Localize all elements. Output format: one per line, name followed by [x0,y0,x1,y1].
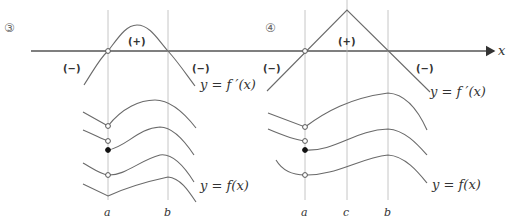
tick-label-b: b [384,206,391,219]
tick-label-b: b [164,206,171,219]
sign-minus-right: (−) [416,63,434,74]
function-curve-2-left [83,130,108,141]
sign-minus-left: (−) [63,63,81,74]
open-point [303,125,308,130]
function-curve-2-right [108,127,194,155]
open-point [106,49,111,54]
tick-label-a: a [104,206,111,219]
function-curve-4 [83,177,196,202]
panel-4-number: ④ [265,21,276,35]
open-point [303,173,308,178]
function-label: y = f(x) [199,178,249,193]
sign-minus-right: (−) [192,63,210,74]
diagram-canvas: x ③ (+) (−) (−) y = f ′(x) y = f(x) a b … [0,0,510,221]
open-point [303,49,308,54]
function-label: y = f(x) [431,177,481,192]
function-curve-1 [268,93,427,130]
tick-label-a: a [301,206,308,219]
function-curve-2-right [305,129,427,155]
derivative-curve [84,25,195,86]
panel-3-number: ③ [4,21,15,35]
function-curve-3 [276,155,427,183]
sign-plus: (+) [128,36,146,47]
function-curve-1 [83,100,196,128]
function-curve-3 [83,155,194,182]
derivative-label: y = f ′(x) [199,77,256,92]
derivative-label: y = f ′(x) [429,84,486,99]
open-point [106,173,111,178]
filled-point [303,148,308,153]
panel-3: ③ (+) (−) (−) y = f ′(x) y = f(x) a b [4,10,256,219]
sign-plus: (+) [338,36,356,47]
tick-label-c: c [343,206,349,219]
panel-4: ④ (+) (−) (−) y = f ′(x) y = f(x) a c b [263,0,486,219]
open-point [106,139,111,144]
sign-minus-left: (−) [263,63,281,74]
open-point [303,139,308,144]
filled-point [106,148,111,153]
open-point [106,124,111,129]
x-axis-label: x [498,43,506,58]
function-curve-2-left [268,129,305,141]
